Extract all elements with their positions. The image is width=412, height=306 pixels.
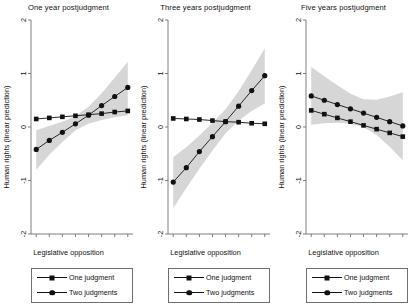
x-tick-label: 0.3 <box>70 238 80 240</box>
y-tick-label: -1 <box>294 177 303 183</box>
y-tick-label: 1 <box>156 72 165 76</box>
y-tick-label: 0 <box>19 125 28 129</box>
legend-label: Two judgments <box>206 288 254 297</box>
data-point <box>387 131 392 136</box>
confidence-band-1 <box>173 48 265 208</box>
legend: One judgmentTwo judgments <box>306 268 408 303</box>
x-tick-label: 0.4 <box>359 238 369 240</box>
x-tick-label: 0.5 <box>372 238 382 240</box>
y-tick-label: 0 <box>294 125 303 129</box>
data-point <box>47 138 52 143</box>
chart-panel-0: One year postjudgmentHuman rights (linea… <box>0 0 137 306</box>
y-tick-label: 1 <box>19 72 28 76</box>
legend: One judgmentTwo judgments <box>168 268 270 303</box>
legend-item-1[interactable]: Two judgments <box>307 285 407 300</box>
data-point <box>335 116 340 121</box>
x-tick-label: 0.3 <box>207 238 217 240</box>
x-tick-label: 0.7 <box>260 238 270 240</box>
data-point <box>309 93 314 98</box>
data-point <box>262 121 267 126</box>
figure-canvas: One year postjudgmentHuman rights (linea… <box>0 0 412 306</box>
y-tick-label: -1 <box>156 177 165 183</box>
legend-label: One judgment <box>344 273 389 282</box>
y-tick-label: 2 <box>156 18 165 22</box>
x-axis-label: Legislative opposition <box>137 248 274 257</box>
data-point <box>236 104 241 109</box>
legend-marker-square-icon <box>172 271 206 285</box>
legend-item-0[interactable]: One judgment <box>307 270 407 285</box>
y-tick-label: -2 <box>19 231 28 237</box>
legend-label: Two judgments <box>344 288 392 297</box>
data-point <box>184 117 189 122</box>
x-axis-label: Legislative opposition <box>275 248 412 257</box>
data-point <box>262 73 267 78</box>
x-tick-label: 0 <box>171 238 175 240</box>
legend-marker-circle-icon <box>172 286 206 300</box>
data-point <box>184 165 189 170</box>
x-tick-label: 0.6 <box>110 238 120 240</box>
legend-item-0[interactable]: One judgment <box>32 270 132 285</box>
data-point <box>374 127 379 132</box>
plot-area: -2-101200.10.20.30.40.50.60.7 <box>275 14 412 240</box>
data-point <box>112 110 117 115</box>
data-point <box>99 103 104 108</box>
data-point <box>73 113 78 118</box>
y-tick-label: -2 <box>156 231 165 237</box>
data-point <box>223 119 228 124</box>
data-point <box>322 98 327 103</box>
panel-title: Five years postjudgment <box>275 3 412 12</box>
x-tick-label: 0.7 <box>398 238 408 240</box>
data-point <box>34 147 39 152</box>
x-tick-label: 0.3 <box>345 238 355 240</box>
data-point <box>47 116 52 121</box>
data-point <box>249 121 254 126</box>
panel-title: Three years postjudgment <box>137 3 274 12</box>
x-tick-label: 0.6 <box>385 238 395 240</box>
x-tick-label: 0.1 <box>319 238 329 240</box>
x-tick-label: 0.5 <box>234 238 244 240</box>
data-point <box>171 116 176 121</box>
legend: One judgmentTwo judgments <box>31 268 133 303</box>
legend-label: Two judgments <box>69 288 117 297</box>
data-point <box>400 123 405 128</box>
y-tick-label: 0 <box>156 125 165 129</box>
x-tick-label: 0 <box>309 238 313 240</box>
chart-panel-1: Three years postjudgmentHuman rights (li… <box>137 0 274 306</box>
x-tick-label: 0.4 <box>221 238 231 240</box>
x-tick-label: 0.1 <box>181 238 191 240</box>
data-point <box>400 134 405 139</box>
data-point <box>73 121 78 126</box>
data-point <box>348 119 353 124</box>
data-point <box>335 102 340 107</box>
y-tick-label: -2 <box>294 231 303 237</box>
x-tick-label: 0.4 <box>84 238 94 240</box>
x-tick-label: 0.2 <box>194 238 204 240</box>
legend-marker-square-icon <box>310 271 344 285</box>
x-tick-label: 0.6 <box>247 238 257 240</box>
legend-marker-circle-icon <box>35 286 69 300</box>
legend-label: One judgment <box>69 273 114 282</box>
x-tick-label: 0 <box>34 238 38 240</box>
data-point <box>348 106 353 111</box>
legend-item-1[interactable]: Two judgments <box>169 285 269 300</box>
plot-area: -2-101200.10.20.30.40.50.60.7 <box>0 14 137 240</box>
data-point <box>171 180 176 185</box>
data-point <box>387 119 392 124</box>
data-point <box>197 117 202 122</box>
panel-title: One year postjudgment <box>0 3 137 12</box>
x-tick-label: 0.1 <box>44 238 54 240</box>
y-tick-label: 2 <box>19 18 28 22</box>
chart-panel-2: Five years postjudgmentHuman rights (lin… <box>275 0 412 306</box>
data-point <box>361 110 366 115</box>
data-point <box>236 120 241 125</box>
data-point <box>112 94 117 99</box>
data-point <box>249 88 254 93</box>
data-point <box>125 85 130 90</box>
data-point <box>34 117 39 122</box>
y-tick-label: 2 <box>294 18 303 22</box>
data-point <box>322 112 327 117</box>
y-tick-label: 1 <box>294 72 303 76</box>
legend-item-1[interactable]: Two judgments <box>32 285 132 300</box>
legend-item-0[interactable]: One judgment <box>169 270 269 285</box>
x-tick-label: 0.7 <box>123 238 133 240</box>
